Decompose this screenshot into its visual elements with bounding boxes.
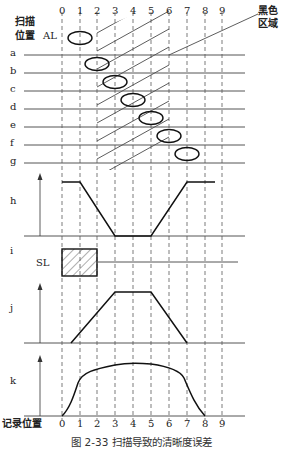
scan-position-label-2: 位置 [15, 31, 35, 41]
pos-label: 3 [112, 419, 118, 429]
pos-label: 8 [202, 6, 208, 16]
figure-caption: 图 2-33 扫描导致的清晰度误差 [0, 434, 283, 449]
row-label-f: f [10, 138, 14, 148]
row-label-g: g [10, 156, 16, 166]
chart-h [24, 173, 245, 236]
pos-label: 0 [59, 419, 65, 429]
pos-label: 4 [130, 6, 136, 16]
row-label-d: d [10, 102, 16, 112]
pos-label: 4 [130, 419, 136, 429]
pos-label: 6 [166, 419, 172, 429]
row-label-c: c [10, 84, 16, 94]
panel-label-j: j [10, 303, 13, 313]
pos-label: 9 [219, 6, 225, 16]
black-region-label-1: 黑色 [258, 6, 278, 16]
aperture-ellipses [68, 32, 199, 161]
pos-label: 1 [77, 6, 83, 16]
pos-label: 5 [148, 419, 154, 429]
row-label-b: b [10, 66, 16, 76]
aperture-label: AL [43, 31, 57, 41]
scan-row-lines [24, 55, 245, 163]
black-region-pointer [169, 14, 258, 55]
black-region-label-2: 区域 [258, 19, 278, 29]
pos-label: 2 [94, 419, 100, 429]
chart-i-slit [62, 249, 238, 276]
pos-label: 2 [94, 6, 100, 16]
row-label-a: a [10, 48, 16, 58]
chart-j [24, 283, 245, 343]
pos-label: 6 [166, 6, 172, 16]
pos-label: 5 [148, 6, 154, 16]
pos-label: 7 [184, 6, 190, 16]
record-position-label: 记录位置 [2, 419, 42, 429]
pos-label: 7 [184, 419, 190, 429]
pos-label: 8 [202, 419, 208, 429]
panel-label-k: k [10, 376, 16, 386]
slit-label: SL [36, 258, 50, 268]
row-label-e: e [10, 120, 16, 130]
diagram-canvas [0, 0, 283, 451]
pos-label: 0 [59, 6, 65, 16]
pos-label: 1 [77, 419, 83, 429]
pos-label: 3 [112, 6, 118, 16]
panel-label-h: h [10, 196, 16, 206]
chart-k [24, 355, 245, 416]
scan-position-label-1: 扫描 [15, 17, 35, 27]
pos-label: 9 [219, 419, 225, 429]
panel-label-i: i [10, 246, 13, 256]
